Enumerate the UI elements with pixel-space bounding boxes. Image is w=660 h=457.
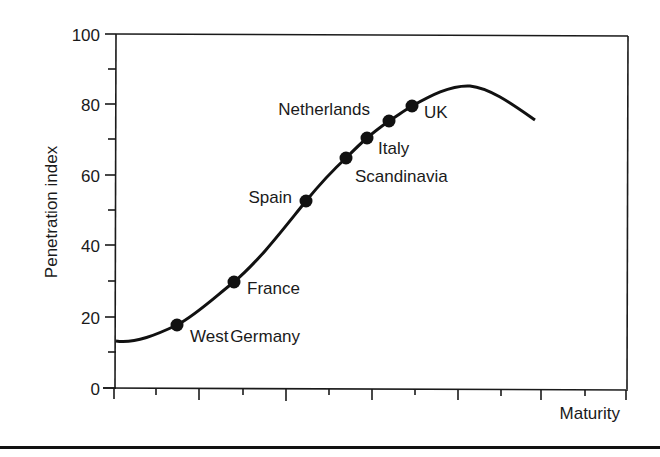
y-tick-80: 80 xyxy=(81,96,100,115)
x-axis-title: Maturity xyxy=(560,404,621,423)
label-spain: Spain xyxy=(249,188,292,207)
point-italy xyxy=(361,132,374,145)
penetration-maturity-chart: 0 20 40 60 80 100 Penetration index Matu… xyxy=(0,0,660,457)
y-tick-100: 100 xyxy=(72,26,100,45)
label-west-germany: West Germany xyxy=(190,327,301,346)
y-tick-labels: 0 20 40 60 80 100 xyxy=(72,26,100,399)
label-scandinavia: Scandinavia xyxy=(355,167,448,186)
point-uk xyxy=(406,100,419,113)
y-axis xyxy=(103,34,116,389)
point-netherlands xyxy=(383,115,396,128)
point-labels: West Germany France Spain Scandinavia It… xyxy=(190,100,448,346)
y-tick-20: 20 xyxy=(81,309,100,328)
y-tick-40: 40 xyxy=(81,237,100,256)
label-france: France xyxy=(247,279,300,298)
bottom-rule xyxy=(0,446,660,449)
label-uk: UK xyxy=(424,103,448,122)
y-axis-title: Penetration index xyxy=(42,145,61,278)
y-tick-0: 0 xyxy=(91,380,100,399)
x-axis xyxy=(103,388,628,401)
label-italy: Italy xyxy=(378,139,410,158)
point-france xyxy=(228,276,241,289)
y-tick-60: 60 xyxy=(81,167,100,186)
label-netherlands: Netherlands xyxy=(278,100,370,119)
diffusion-curve xyxy=(116,86,535,342)
point-west-germany xyxy=(171,319,184,332)
point-spain xyxy=(300,195,313,208)
point-scandinavia xyxy=(340,152,353,165)
